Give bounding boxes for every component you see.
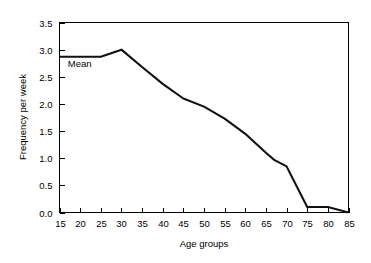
x-tick-label: 45 (178, 218, 189, 229)
chart-figure: 0.00.51.01.52.02.53.03.5 152025303540455… (0, 0, 371, 263)
mean-frequency-line (60, 50, 349, 213)
mean-annotation-label: Mean (68, 58, 92, 69)
y-tick-label: 0.5 (39, 180, 52, 191)
x-tick-label: 60 (240, 218, 251, 229)
x-tick-label: 15 (55, 218, 66, 229)
y-tick-label: 3.0 (39, 45, 52, 56)
x-tick-label: 70 (282, 218, 293, 229)
x-tick-label: 35 (137, 218, 148, 229)
y-tick-label: 1.5 (39, 126, 52, 137)
y-tick-label: 2.0 (39, 99, 52, 110)
plot-frame (60, 23, 349, 213)
x-tick-label: 75 (302, 218, 313, 229)
y-axis-tick-labels: 0.00.51.01.52.02.53.03.5 (39, 18, 52, 219)
y-tick-label: 3.5 (39, 18, 52, 29)
x-tick-label: 55 (220, 218, 231, 229)
y-tick-label: 1.0 (39, 153, 52, 164)
line-chart: 0.00.51.01.52.02.53.03.5 152025303540455… (0, 0, 371, 263)
x-tick-label: 65 (261, 218, 272, 229)
x-tick-label: 85 (344, 218, 355, 229)
x-axis-ticks (61, 208, 350, 213)
x-tick-label: 30 (116, 218, 127, 229)
y-tick-label: 0.0 (39, 208, 52, 219)
x-axis-tick-labels: 152025303540455055606570758085 (55, 218, 355, 229)
y-axis-ticks (60, 24, 65, 214)
x-tick-label: 80 (323, 218, 334, 229)
x-tick-label: 50 (199, 218, 210, 229)
y-axis-title: Frequency per week (17, 74, 28, 160)
y-tick-label: 2.5 (39, 72, 52, 83)
x-tick-label: 40 (158, 218, 169, 229)
x-tick-label: 20 (75, 218, 86, 229)
x-tick-label: 25 (96, 218, 107, 229)
x-axis-title: Age groups (180, 238, 229, 249)
